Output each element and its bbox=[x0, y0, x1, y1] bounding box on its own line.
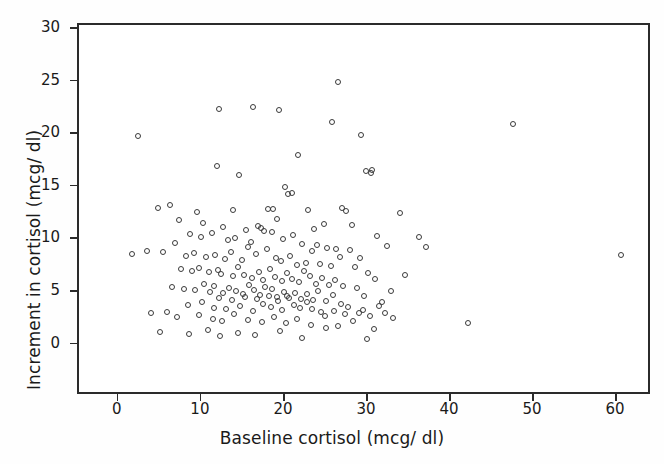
data-point bbox=[253, 251, 259, 257]
data-point bbox=[237, 303, 243, 309]
data-point bbox=[321, 221, 327, 227]
data-point bbox=[201, 281, 207, 287]
data-point bbox=[338, 301, 344, 307]
data-point bbox=[303, 260, 309, 266]
data-point bbox=[356, 310, 362, 316]
data-point bbox=[199, 299, 205, 305]
data-point bbox=[251, 287, 257, 293]
data-point bbox=[333, 246, 339, 252]
data-point bbox=[324, 245, 330, 251]
data-point bbox=[157, 329, 163, 335]
data-point bbox=[206, 269, 212, 275]
data-point bbox=[299, 335, 305, 341]
data-point bbox=[236, 172, 242, 178]
data-point bbox=[279, 278, 285, 284]
data-point bbox=[235, 264, 241, 270]
data-point bbox=[222, 256, 228, 262]
y-tick-label: 10 bbox=[41, 228, 60, 246]
data-point bbox=[160, 249, 166, 255]
data-point bbox=[144, 248, 150, 254]
data-point bbox=[416, 234, 422, 240]
data-point bbox=[390, 315, 396, 321]
data-point bbox=[256, 269, 262, 275]
data-point bbox=[167, 202, 173, 208]
data-point bbox=[259, 319, 265, 325]
data-point bbox=[298, 296, 304, 302]
x-tick-label: 40 bbox=[439, 400, 458, 418]
data-point bbox=[384, 243, 390, 249]
data-point bbox=[155, 205, 161, 211]
y-tick-mark bbox=[70, 237, 77, 239]
data-point bbox=[250, 308, 256, 314]
data-point bbox=[229, 297, 235, 303]
y-tick-mark bbox=[70, 185, 77, 187]
data-point bbox=[358, 132, 364, 138]
data-point bbox=[178, 266, 184, 272]
data-point bbox=[223, 306, 229, 312]
data-point bbox=[374, 233, 380, 239]
data-point bbox=[337, 254, 343, 260]
data-point bbox=[216, 295, 222, 301]
data-point bbox=[319, 275, 325, 281]
data-point bbox=[276, 107, 282, 113]
data-point bbox=[181, 286, 187, 292]
data-point bbox=[296, 279, 302, 285]
data-point bbox=[185, 302, 191, 308]
data-point bbox=[354, 285, 360, 291]
scatter-plot-figure: Baseline cortisol (mcg/ dl) Increment in… bbox=[0, 0, 664, 464]
data-point bbox=[292, 290, 298, 296]
data-point bbox=[196, 265, 202, 271]
y-tick-mark bbox=[70, 80, 77, 82]
data-point bbox=[254, 296, 260, 302]
data-point bbox=[269, 229, 275, 235]
data-point bbox=[269, 286, 275, 292]
data-point bbox=[232, 235, 238, 241]
data-point bbox=[192, 287, 198, 293]
data-point bbox=[183, 253, 189, 259]
data-point bbox=[233, 288, 239, 294]
data-point bbox=[347, 247, 353, 253]
data-point bbox=[301, 268, 307, 274]
data-point bbox=[397, 210, 403, 216]
data-point bbox=[289, 276, 295, 282]
data-point bbox=[212, 252, 218, 258]
data-point bbox=[350, 318, 356, 324]
data-point bbox=[196, 312, 202, 318]
data-point bbox=[352, 264, 358, 270]
data-point bbox=[219, 318, 225, 324]
data-point bbox=[218, 271, 224, 277]
y-tick-label: 15 bbox=[41, 176, 60, 194]
data-point bbox=[364, 336, 370, 342]
data-point bbox=[148, 310, 154, 316]
data-point bbox=[367, 313, 373, 319]
data-point bbox=[343, 208, 349, 214]
data-point bbox=[376, 303, 382, 309]
data-point bbox=[280, 236, 286, 242]
data-point bbox=[271, 314, 277, 320]
data-point bbox=[211, 283, 217, 289]
data-point bbox=[314, 242, 320, 248]
data-point bbox=[207, 289, 213, 295]
data-point bbox=[368, 170, 374, 176]
data-point bbox=[258, 225, 264, 231]
plot-frame bbox=[77, 23, 650, 394]
data-point bbox=[230, 273, 236, 279]
data-point bbox=[243, 227, 249, 233]
data-point bbox=[289, 190, 295, 196]
x-tick-label: 10 bbox=[190, 400, 209, 418]
data-point bbox=[326, 282, 332, 288]
data-point bbox=[249, 275, 255, 281]
x-tick-label: 0 bbox=[112, 400, 122, 418]
data-point bbox=[198, 234, 204, 240]
data-point bbox=[239, 257, 245, 263]
data-point bbox=[272, 274, 278, 280]
data-point bbox=[176, 217, 182, 223]
data-point bbox=[311, 226, 317, 232]
data-point bbox=[172, 240, 178, 246]
data-point bbox=[361, 293, 367, 299]
data-point bbox=[275, 298, 281, 304]
data-point bbox=[242, 294, 248, 300]
data-point bbox=[194, 209, 200, 215]
data-point bbox=[252, 332, 258, 338]
data-point bbox=[332, 277, 338, 283]
